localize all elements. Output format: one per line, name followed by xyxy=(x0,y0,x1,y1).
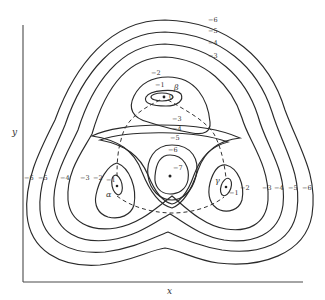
center-contour-minus-3 xyxy=(92,125,240,208)
center-minimum-point xyxy=(169,175,172,178)
label-alpha: α xyxy=(106,190,112,199)
label-center-minus-3: −3 xyxy=(172,115,182,123)
label-left-minus-6: −6 xyxy=(24,174,34,182)
alpha-minimum-point xyxy=(116,185,119,188)
label-center-minus-4: −4 xyxy=(172,125,182,133)
center-contour-minus-6 xyxy=(155,155,188,194)
label-top-minus-5: −5 xyxy=(208,27,218,35)
label-beta: β xyxy=(173,83,179,92)
gamma-minimum-point xyxy=(225,186,228,189)
label-right-minus-4: −4 xyxy=(274,184,284,192)
label-left-minus-2: −2 xyxy=(93,174,103,182)
label-center-minus-6: −6 xyxy=(168,146,178,154)
contour-level-minus-4 xyxy=(54,44,284,241)
label-left-minus-5: −5 xyxy=(38,174,48,182)
label-center-minus-5: −5 xyxy=(170,134,180,142)
label-center-minus-7: −7 xyxy=(173,164,183,172)
x-axis-label: x xyxy=(167,286,172,296)
label-left-minus-4: −4 xyxy=(60,174,70,182)
label-left-minus-3: −3 xyxy=(80,174,90,182)
label-top-minus-6: −6 xyxy=(208,16,218,24)
label-left-minus-1: −1 xyxy=(106,176,116,184)
label-gamma: γ xyxy=(215,176,220,185)
y-axis-label: y xyxy=(11,127,18,137)
contour-level-minus-3 xyxy=(68,57,268,230)
label-beta-minus-2: −2 xyxy=(151,69,161,77)
label-beta-minus-1: −1 xyxy=(155,81,165,89)
contour-level-minus-5 xyxy=(40,32,298,252)
label-right-minus-3: −3 xyxy=(262,184,272,192)
reaction-path-alpha-to-gamma xyxy=(117,196,224,213)
contour-diagram: y x −6 −5 −4 −3 −2 −1 0 β −3 −4 −5 −6 −7… xyxy=(0,0,325,300)
label-top-minus-4: −4 xyxy=(208,39,218,47)
label-beta-0: 0 xyxy=(169,93,173,101)
label-right-minus-2: −2 xyxy=(240,184,250,192)
label-gamma-minus-1: −1 xyxy=(229,189,239,197)
label-right-minus-5: −5 xyxy=(288,184,298,192)
label-right-minus-6: −6 xyxy=(302,184,312,192)
beta-minimum-point xyxy=(163,96,166,99)
label-top-minus-3: −3 xyxy=(208,52,218,60)
alpha-contour-minus-2 xyxy=(96,163,135,218)
